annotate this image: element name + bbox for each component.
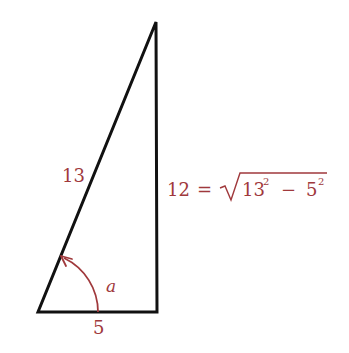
svg-text:−: − (281, 179, 296, 200)
angle-arc (64, 258, 98, 312)
hypotenuse-label: 13 (62, 165, 85, 186)
triangle-diagram: a 13 5 12 = 13 2 − 5 2 (0, 0, 349, 353)
svg-text:=: = (197, 179, 212, 200)
svg-text:5: 5 (306, 179, 317, 200)
svg-text:2: 2 (263, 176, 269, 187)
svg-text:2: 2 (318, 176, 324, 187)
right-triangle (38, 22, 157, 312)
height-label: 12 = 13 2 − 5 2 (167, 173, 327, 200)
angle-label: a (106, 276, 116, 296)
svg-text:13: 13 (242, 179, 265, 200)
base-label: 5 (93, 317, 104, 338)
svg-text:12: 12 (167, 179, 190, 200)
